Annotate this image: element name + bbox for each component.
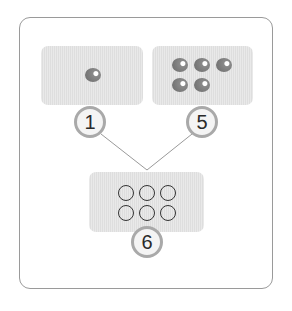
counter-dot — [194, 58, 210, 72]
connector-left — [101, 134, 147, 170]
counter-dot — [172, 58, 188, 72]
counter-dot — [172, 78, 188, 92]
part-number-badge-right: 5 — [186, 106, 218, 138]
whole-number-badge: 6 — [131, 226, 163, 258]
counter-dot — [85, 68, 101, 82]
counter-dot — [194, 78, 210, 92]
counter-dot — [216, 58, 232, 72]
empty-circle — [160, 185, 176, 201]
whole-box — [89, 172, 204, 232]
empty-circle — [118, 185, 134, 201]
part-number-badge-left: 1 — [74, 106, 106, 138]
empty-circle — [139, 185, 155, 201]
part-box-right — [152, 46, 253, 105]
empty-circle — [118, 205, 134, 221]
empty-circle — [139, 205, 155, 221]
part-box-left — [41, 46, 143, 105]
connector-right — [147, 134, 192, 170]
empty-circle — [160, 205, 176, 221]
